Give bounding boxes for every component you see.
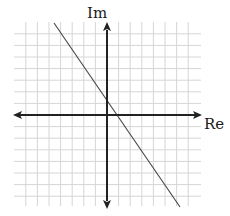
real-axis-label: Re xyxy=(204,117,224,132)
arrow-down-icon xyxy=(103,200,111,209)
imaginary-axis-label: Im xyxy=(87,6,107,21)
complex-plane-diagram: Im Re xyxy=(0,0,230,216)
complex-plane-svg xyxy=(0,0,230,216)
arrow-up-icon xyxy=(103,22,111,31)
